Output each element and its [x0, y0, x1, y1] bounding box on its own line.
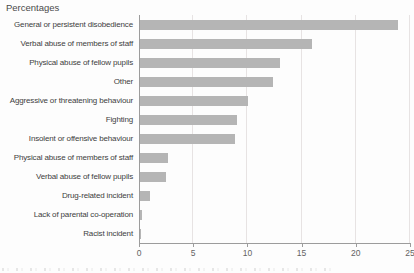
chart-row: Fighting: [0, 110, 410, 129]
bar-track: [139, 229, 410, 239]
category-label: Insolent or offensive behaviour: [0, 134, 139, 143]
chart-row: Racist incident: [0, 224, 410, 243]
bar: [139, 153, 168, 163]
chart-title: Percentages: [6, 2, 59, 13]
chart-row: Verbal abuse of members of staff: [0, 34, 410, 53]
category-label: Aggressive or threatening behaviour: [0, 96, 139, 105]
x-tick-label: 5: [191, 248, 196, 258]
x-tick-label: 20: [351, 248, 360, 258]
category-label: General or persistent disobedience: [0, 20, 139, 29]
bar-track: [139, 96, 410, 106]
bar-track: [139, 20, 410, 30]
bar-track: [139, 115, 410, 125]
bar-track: [139, 191, 410, 201]
bar: [139, 58, 280, 68]
bar: [139, 20, 398, 30]
category-label: Fighting: [0, 115, 139, 124]
bar: [139, 77, 273, 87]
x-tick-mark: [139, 244, 140, 247]
x-tick-mark: [193, 244, 194, 247]
chart-row: Insolent or offensive behaviour: [0, 129, 410, 148]
category-label: Drug-related incident: [0, 191, 139, 200]
chart-row: Other: [0, 72, 410, 91]
x-tick-mark: [247, 244, 248, 247]
bar-chart: Percentages General or persistent disobe…: [0, 0, 414, 273]
chart-row: Verbal abuse of fellow pupils: [0, 167, 410, 186]
bar-track: [139, 134, 410, 144]
bar: [139, 115, 237, 125]
bar-track: [139, 172, 410, 182]
chart-row: Drug-related incident: [0, 186, 410, 205]
category-label: Racist incident: [0, 229, 139, 238]
category-label: Lack of parental co-operation: [0, 210, 139, 219]
category-label: Other: [0, 77, 139, 86]
bar: [139, 96, 248, 106]
chart-row: Aggressive or threatening behaviour: [0, 91, 410, 110]
category-label: Physical abuse of fellow pupils: [0, 58, 139, 67]
bar: [139, 134, 235, 144]
chart-row: General or persistent disobedience: [0, 15, 410, 34]
bar-track: [139, 153, 410, 163]
bar: [139, 191, 150, 201]
chart-rows: General or persistent disobedienceVerbal…: [0, 15, 410, 243]
category-label: Physical abuse of members of staff: [0, 153, 139, 162]
bar: [139, 39, 312, 49]
x-tick-mark: [410, 244, 411, 247]
x-tick-label: 10: [243, 248, 252, 258]
bar-track: [139, 77, 410, 87]
category-label: Verbal abuse of members of staff: [0, 39, 139, 48]
chart-row: Lack of parental co-operation: [0, 205, 410, 224]
x-tick-mark: [356, 244, 357, 247]
bar-track: [139, 210, 410, 220]
category-label: Verbal abuse of fellow pupils: [0, 172, 139, 181]
cropped-text-artifact: [2, 268, 332, 271]
bar: [139, 172, 166, 182]
chart-row: Physical abuse of fellow pupils: [0, 53, 410, 72]
x-tick-label: 15: [297, 248, 306, 258]
x-axis-ticks: 0510152025: [139, 243, 410, 265]
x-tick-label: 0: [137, 248, 142, 258]
x-tick-mark: [302, 244, 303, 247]
y-axis-line: [139, 15, 140, 244]
chart-row: Physical abuse of members of staff: [0, 148, 410, 167]
bar-track: [139, 58, 410, 68]
x-tick-label: 25: [405, 248, 414, 258]
bar-track: [139, 39, 410, 49]
